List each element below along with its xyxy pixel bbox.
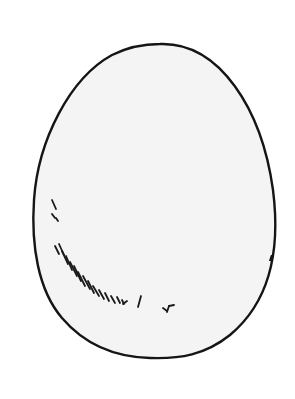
egg-illustration [0, 0, 295, 399]
egg-drawing [0, 0, 295, 399]
egg-outline [33, 44, 275, 358]
